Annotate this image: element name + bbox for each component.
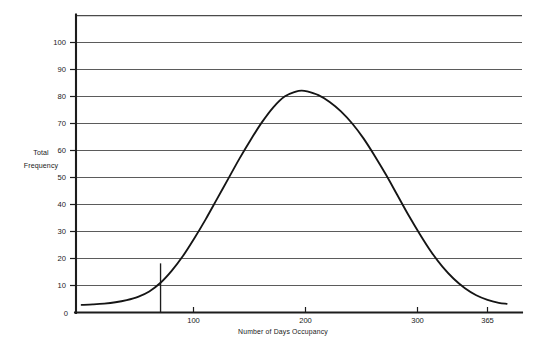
y-axis-title: Total Frequency [24, 149, 59, 170]
y-axis-title-line2: Frequency [24, 162, 59, 170]
x-tick-label-100: 100 [187, 316, 200, 325]
x-tick-label-200: 200 [299, 316, 312, 325]
y-tick-labels: 100 90 80 70 60 50 40 30 20 10 0 [53, 38, 68, 318]
y-tick-label-80: 80 [58, 92, 66, 101]
y-tick-label-100: 100 [53, 38, 66, 47]
gridlines [75, 16, 522, 286]
y-tick-label-70: 70 [58, 119, 66, 128]
curve-total-frequency [82, 91, 507, 305]
y-tick-label-50: 50 [58, 173, 66, 182]
y-tick-label-90: 90 [58, 65, 66, 74]
chart-canvas: 100 90 80 70 60 50 40 30 20 10 0 100 200… [0, 0, 559, 348]
y-axis-title-line1: Total [33, 149, 49, 157]
x-axis-title: Number of Days Occupancy [238, 328, 328, 336]
x-tick-label-300: 300 [411, 316, 424, 325]
data-series-total-frequency [82, 91, 507, 305]
chart-figure: 100 90 80 70 60 50 40 30 20 10 0 100 200… [0, 0, 559, 348]
y-tick-label-0: 0 [64, 309, 68, 318]
x-tick-label-365: 365 [481, 316, 494, 325]
axes [75, 15, 522, 314]
y-tick-label-10: 10 [58, 281, 66, 290]
y-tick-label-60: 60 [58, 146, 66, 155]
y-tick-label-40: 40 [58, 200, 66, 209]
y-tick-label-20: 20 [58, 254, 66, 263]
x-tick-labels: 100 200 300 365 [187, 316, 494, 325]
y-tick-label-30: 30 [58, 227, 66, 236]
